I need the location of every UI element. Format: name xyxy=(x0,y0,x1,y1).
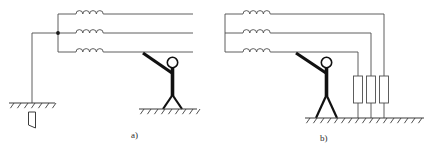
panel-a xyxy=(9,11,200,128)
person-leg-right xyxy=(173,95,183,109)
phase-line-1 xyxy=(58,11,193,14)
person-leg-left xyxy=(316,95,327,118)
neutral-junction-dot xyxy=(56,31,60,35)
phase-line-3 xyxy=(225,49,358,52)
panel-a-phase-windings xyxy=(58,11,193,52)
earthing-resistor-2 xyxy=(367,76,376,103)
panel-b xyxy=(225,11,424,124)
earthing-resistor-1 xyxy=(380,76,389,103)
panel-b-person xyxy=(296,53,337,118)
panel-b-earthing-droppers xyxy=(354,14,389,118)
person-leg-left xyxy=(163,95,173,109)
phase-line-2 xyxy=(58,30,193,33)
earthing-branch-2 xyxy=(367,33,376,118)
earthing-branch-1 xyxy=(380,14,389,118)
panel-b-phase-windings xyxy=(225,11,384,52)
person-head xyxy=(167,57,177,67)
phase-line-2 xyxy=(225,30,371,33)
electrical-diagram xyxy=(0,0,427,157)
phase-line-1 xyxy=(225,11,384,14)
panel-b-earth-bar xyxy=(305,118,424,123)
earthing-resistor-3 xyxy=(354,76,363,103)
panel-b-caption: b) xyxy=(320,134,328,143)
panel-a-earth-symbol xyxy=(9,103,56,108)
panel-a-standing-ground xyxy=(139,109,200,114)
panel-a-caption: a) xyxy=(131,131,138,140)
figure-root: a) b) xyxy=(0,0,427,157)
earth-rod-electrode xyxy=(29,112,36,128)
person-leg-right xyxy=(327,95,338,118)
earthing-branch-3 xyxy=(354,52,363,118)
phase-line-3 xyxy=(58,49,193,52)
neutral-earth-conductor xyxy=(32,31,60,103)
panel-a-person xyxy=(143,53,182,109)
person-head xyxy=(321,57,331,67)
